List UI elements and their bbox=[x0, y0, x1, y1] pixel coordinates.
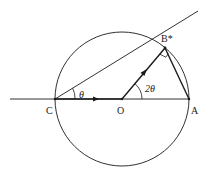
segment-BA bbox=[165, 48, 189, 99]
point-C bbox=[54, 98, 56, 100]
label-C: C bbox=[46, 105, 53, 116]
label-O: O bbox=[117, 105, 124, 116]
label-B-star: B* bbox=[161, 33, 173, 44]
point-A bbox=[188, 98, 190, 100]
right-angle-marker bbox=[160, 54, 169, 58]
angle-arc-theta bbox=[73, 88, 75, 99]
label-2theta: 2θ bbox=[145, 83, 155, 94]
label-theta: θ bbox=[79, 89, 84, 100]
label-A: A bbox=[191, 105, 199, 116]
point-B bbox=[164, 47, 167, 50]
angle-arc-2theta bbox=[135, 84, 142, 99]
line-CB-extended bbox=[55, 11, 198, 99]
arrow-CO-icon bbox=[93, 97, 99, 102]
geometry-diagram: C O A B* θ 2θ bbox=[0, 0, 209, 177]
point-O bbox=[121, 98, 123, 100]
